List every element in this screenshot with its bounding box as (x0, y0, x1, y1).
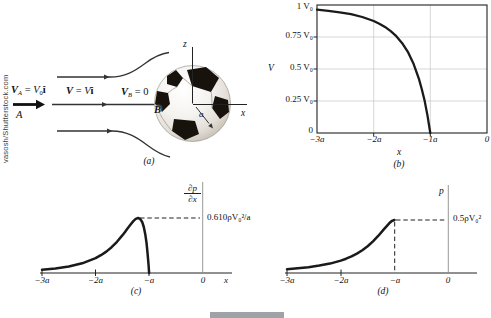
dpdx-numerator: ∂p (184, 183, 201, 194)
panel-b-xtick-m3a: −3a (303, 135, 331, 145)
panel-c-xtick-0: 0 (189, 276, 217, 286)
caption-a: (a) (138, 156, 160, 166)
caption-d: (d) (371, 286, 395, 296)
streamline-bottom-arrow-icon (107, 128, 113, 133)
streamline-top-arrow-icon (104, 74, 110, 79)
panel-b-ytick-025: 0.25 V₀ (253, 95, 313, 105)
caption-c: (c) (124, 286, 148, 296)
v-unit-vector: î (91, 85, 94, 96)
panel-d-peak-value-label: 0.5ρV₀² (453, 214, 481, 224)
va-unit-vector: î (43, 84, 46, 95)
panel-b-xtick-0: 0 (473, 135, 491, 145)
panel-c-xtick-m2a: −2a (82, 276, 110, 286)
panel-b-ytick-05: 0.5 V₀ (253, 63, 313, 73)
panel-c-peak-value-label: 0.610ρV₀²/a (207, 213, 251, 223)
panel-b-xtick-m1a: −1a (416, 135, 444, 145)
pressure-gradient-curve (42, 218, 149, 273)
point-b-label: B (154, 104, 161, 116)
streamline-middle-arrow-icon (102, 102, 108, 107)
caption-b: (b) (387, 159, 411, 169)
credit-text: vasosh/Shutterstock.com (1, 75, 10, 163)
panel-b-tick-marks (314, 37, 431, 137)
figure-page: { "credit": "vasosh/Shutterstock.com", "… (0, 0, 491, 318)
freestream-velocity-label: V = Vî (66, 85, 94, 97)
panel-c-xtick-m3a: −3a (28, 276, 56, 286)
streamline-top (57, 53, 169, 78)
pressure-curve (287, 220, 395, 269)
panel-d-xtick-m2a: −2a (327, 276, 355, 286)
va-symbol: V (11, 84, 18, 95)
v-equals: = (73, 85, 84, 96)
v-symbol: V (66, 85, 73, 96)
panel-d-xtick-0: 0 (434, 276, 462, 286)
panel-b-chart (314, 5, 488, 137)
cropped-figure-label-bar (210, 312, 284, 318)
streamline-bottom (57, 131, 170, 157)
stagnation-velocity-label: VB = 0 (121, 86, 148, 98)
z-axis-label: z (183, 39, 187, 49)
panel-d-y-axis-title: p (439, 186, 444, 196)
panel-c-y-axis-title: ∂p ∂x (184, 183, 201, 204)
panel-b-xtick-m2a: −2a (360, 135, 388, 145)
panel-a-diagram (13, 47, 247, 157)
panel-c-chart (40, 182, 232, 276)
point-a-label: A (16, 109, 22, 121)
panel-c-x-axis-title: x (224, 276, 228, 286)
panel-b-ytick-1v0: 1 V₀ (253, 2, 313, 12)
panel-b-ytick-075: 0.75 V₀ (253, 31, 313, 41)
panel-d-chart (285, 185, 477, 276)
panel-d-xtick-m3a: −3a (273, 276, 301, 286)
inlet-arrow-head (36, 100, 45, 109)
panel-b-y-axis-title: V (268, 63, 274, 73)
vb-equals-zero: = 0 (132, 86, 148, 97)
panel-b-gridlines (317, 5, 487, 133)
radius-label: a (199, 110, 204, 120)
dpdx-denominator: ∂x (184, 194, 201, 204)
vb-symbol: V (121, 86, 128, 97)
panel-c-xtick-ma: −a (135, 276, 163, 286)
inlet-velocity-label: VA = V0î (11, 84, 46, 96)
panel-d-xtick-ma: −a (381, 276, 409, 286)
x-axis-label-a: x (241, 108, 245, 118)
figure-linework (0, 0, 491, 318)
va-equals: = (22, 84, 33, 95)
panel-b-x-axis-title: x (392, 147, 406, 157)
